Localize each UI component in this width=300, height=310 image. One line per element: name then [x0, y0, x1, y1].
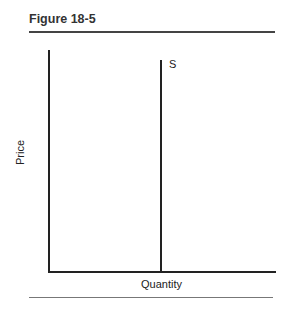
- supply-curve: [160, 60, 162, 272]
- x-axis-label: Quantity: [141, 278, 182, 290]
- y-axis: [48, 50, 50, 273]
- figure-title: Figure 18-5: [29, 12, 96, 26]
- title-rule: [29, 31, 275, 33]
- x-axis: [48, 271, 276, 273]
- supply-curve-label: S: [169, 58, 176, 70]
- y-axis-label: Price: [14, 140, 26, 165]
- bottom-rule: [29, 297, 273, 298]
